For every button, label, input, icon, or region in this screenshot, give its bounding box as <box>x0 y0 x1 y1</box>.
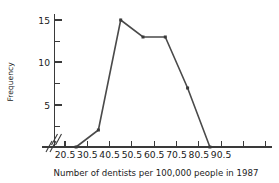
data-point-marker <box>75 146 78 149</box>
x-tick-label: 70.5 <box>166 149 187 160</box>
data-point-marker <box>186 87 189 90</box>
x-tick-label: 50.5 <box>122 149 143 160</box>
y-axis-minor-ticks <box>55 41 61 126</box>
y-axis-title: Frequency <box>6 62 15 102</box>
data-point-marker <box>119 19 122 22</box>
x-tick-label: 80.5 <box>189 149 210 160</box>
data-point-marker <box>208 146 211 149</box>
y-axis-break-icon <box>52 134 62 145</box>
y-axis-ticks <box>55 20 63 105</box>
x-tick-label: 30.5 <box>77 149 98 160</box>
x-tick-label: 90.5 <box>211 149 232 160</box>
series-line <box>76 20 210 147</box>
series-markers <box>75 19 212 149</box>
chart-canvas: 20.5 30.5 40.5 50.5 60.5 70.5 80.5 90.5 … <box>0 0 279 183</box>
x-axis-ticks <box>65 141 266 147</box>
x-tick-label: 20.5 <box>55 149 76 160</box>
y-tick-label: 5 <box>44 100 50 111</box>
x-tick-label: 60.5 <box>144 149 165 160</box>
frequency-polygon-chart: 20.5 30.5 40.5 50.5 60.5 70.5 80.5 90.5 … <box>0 0 279 183</box>
data-point-marker <box>142 36 145 39</box>
data-point-marker <box>97 129 100 132</box>
y-tick-label: 15 <box>38 15 50 26</box>
x-axis-title: Number of dentists per 100,000 people in… <box>54 168 259 178</box>
x-tick-label: 40.5 <box>99 149 120 160</box>
data-point-marker <box>164 36 167 39</box>
y-tick-label: 10 <box>38 57 50 68</box>
